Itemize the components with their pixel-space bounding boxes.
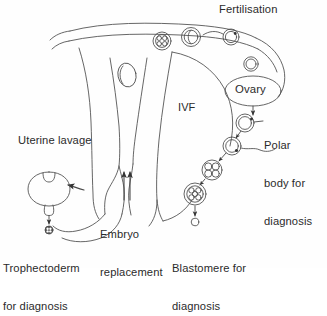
morula-cell (184, 183, 206, 205)
trophectoderm-sample (45, 226, 53, 234)
label-ivf: IVF (178, 101, 195, 114)
label-blastomere: Blastomere for diagnosis (172, 237, 246, 316)
four-cell-to-morula-arrow (200, 179, 205, 185)
label-trophectoderm-line2: for diagnosis (3, 300, 80, 313)
label-trophectoderm-line1: Trophectoderm (3, 262, 80, 275)
label-polar-body-line1: Polar (264, 139, 312, 152)
peritoneal-sweep-curve (163, 52, 233, 221)
ovulated-oocyte-cell (236, 114, 254, 132)
oocyte-to-zygote-arrow (236, 131, 241, 138)
left-ovary-outline (116, 61, 139, 88)
tube-morula-cell (153, 32, 171, 50)
label-ovary: Ovary (235, 83, 266, 96)
label-embryo-replacement-line1: Embryo (100, 228, 163, 241)
label-uterine-lavage: Uterine lavage (18, 134, 92, 147)
label-polar-body-line2: body for (264, 177, 312, 190)
blastocyst-shape (28, 172, 70, 216)
label-embryo-replacement-line2: replacement (100, 266, 163, 279)
tube-two-cell-embryo (182, 28, 201, 47)
label-blastomere-line2: diagnosis (172, 300, 246, 313)
released-oocyte-cell (244, 57, 258, 71)
label-trophectoderm: Trophectoderm for diagnosis (3, 237, 80, 316)
label-polar-body-line3: diagnosis (264, 215, 312, 228)
label-fertilisation: Fertilisation (219, 3, 278, 16)
uterus-outline (79, 48, 172, 226)
polar-body-leader-line (254, 121, 263, 122)
label-blastomere-line1: Blastomere for (172, 262, 246, 275)
label-polar-body: Polar body for diagnosis (264, 114, 312, 253)
zygote-to-four-cell-arrow (219, 153, 226, 161)
four-cell-embryo (202, 160, 222, 180)
label-embryo-replacement: Embryo replacement (100, 203, 163, 304)
biopsied-blastomere (191, 218, 199, 226)
